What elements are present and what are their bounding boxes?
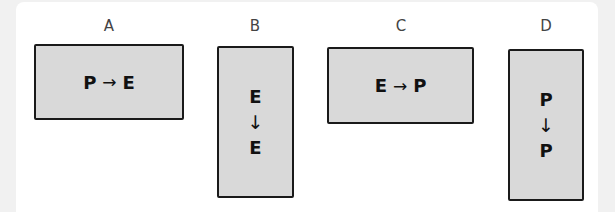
panel-b-label: B — [240, 17, 270, 35]
panel-a-label: A — [94, 17, 124, 35]
panel-b-box: E ↓ E — [217, 46, 294, 198]
down-arrow-icon: ↓ — [538, 116, 554, 135]
panel-d-to: P — [539, 139, 552, 162]
down-arrow-icon: ↓ — [248, 113, 264, 132]
panel-d-box: P ↓ P — [508, 49, 584, 201]
panel-a-to: E — [123, 72, 135, 93]
panel-c-from: E — [375, 75, 387, 96]
panel-d-from: P — [539, 88, 552, 111]
right-arrow-icon: → — [393, 76, 407, 96]
panel-c-to: P — [413, 75, 426, 96]
panel-c-box: E → P — [327, 47, 474, 124]
panel-b-to: E — [249, 136, 261, 159]
panel-c-label: C — [386, 17, 416, 35]
panel-b-from: E — [249, 85, 261, 108]
panel-d-label: D — [531, 17, 561, 35]
right-arrow-icon: → — [102, 72, 116, 92]
panel-a-box: P → E — [34, 44, 184, 120]
panel-a-from: P — [83, 72, 96, 93]
